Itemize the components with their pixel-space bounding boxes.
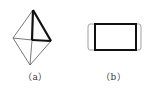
- edge-right-bottom: [30, 41, 51, 65]
- bold-edge-apex-right: [33, 10, 51, 41]
- edge-inner-bottom: [30, 40, 32, 65]
- left-cap-outline: [88, 24, 94, 50]
- figure-a-wireframe: [13, 10, 51, 65]
- edge-left-inner: [13, 38, 32, 40]
- bold-edge-apex-inner: [32, 10, 33, 40]
- edge-apex-left: [13, 10, 33, 38]
- figure-b-label: （b）: [101, 70, 126, 83]
- figure-b-shape: [88, 24, 141, 50]
- figure-a-label: （a）: [23, 70, 48, 83]
- bold-edge-inner-right: [32, 40, 51, 41]
- edge-left-bottom: [13, 38, 30, 65]
- bold-rectangle: [95, 24, 136, 50]
